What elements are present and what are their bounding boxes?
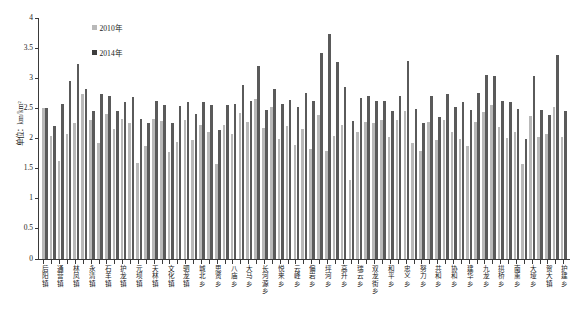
x-tick-cell — [205, 260, 213, 264]
y-tick-label: 2.5 — [24, 103, 33, 112]
x-label-cell — [64, 265, 72, 314]
x-tick-mark — [421, 260, 422, 264]
x-tick-cell — [505, 260, 513, 264]
x-label-cell — [142, 265, 150, 314]
x-tick-mark — [358, 260, 359, 264]
x-label-cell: 双龙街乡 — [371, 265, 379, 314]
x-label-cell: 南薰乡 — [513, 265, 521, 314]
bar-2014 — [85, 89, 88, 260]
x-label-cell — [95, 265, 103, 314]
x-tick-mark — [390, 260, 391, 264]
bar-group — [300, 18, 308, 259]
x-tick-mark — [327, 260, 328, 264]
bar-2014 — [383, 101, 386, 259]
bar-2014 — [336, 62, 339, 259]
x-tick-cell — [520, 260, 528, 264]
bar-group — [324, 18, 332, 259]
x-tick-cell — [72, 260, 80, 264]
x-tick-mark — [429, 260, 430, 264]
bar-2014 — [163, 105, 166, 259]
bar-group — [379, 18, 387, 259]
x-tick-mark — [83, 260, 84, 264]
bar-2014 — [344, 87, 347, 259]
x-tick-cell — [442, 260, 450, 264]
y-tick-label: 0.5 — [24, 223, 33, 232]
x-tick-mark — [122, 260, 123, 264]
bar-2014 — [226, 105, 229, 259]
x-tick-cell — [331, 260, 339, 264]
bar-2014 — [517, 109, 520, 259]
y-tick-label: 4 — [29, 13, 33, 22]
x-tick-mark — [240, 260, 241, 264]
bar-group — [418, 18, 426, 259]
x-label-cell: 八庙乡 — [229, 265, 237, 314]
x-tick-mark — [295, 260, 296, 264]
x-tick-cell — [213, 260, 221, 264]
x-tick-mark — [138, 260, 139, 264]
x-axis-label: 通营镇 — [56, 265, 63, 287]
x-tick-cell — [300, 260, 308, 264]
x-axis-label: 贺大镇 — [544, 265, 551, 287]
x-tick-mark — [91, 260, 92, 264]
x-label-cell: 和平乡 — [387, 265, 395, 314]
x-tick-mark — [563, 260, 564, 264]
x-tick-mark — [406, 260, 407, 264]
bar-2014 — [210, 105, 213, 259]
x-label-cell: 大马乡 — [245, 265, 253, 314]
x-tick-cell — [292, 260, 300, 264]
x-label-cell: 悦来乡 — [276, 265, 284, 314]
x-label-cell: 协和乡 — [450, 265, 458, 314]
x-tick-cell — [174, 260, 182, 264]
bar-group — [308, 18, 316, 259]
x-label-cell: 永清镇 — [87, 265, 95, 314]
x-label-cell: 元坝镇 — [135, 265, 143, 314]
x-label-cell — [127, 265, 135, 314]
bar-group — [473, 18, 481, 259]
x-tick-cell — [473, 260, 481, 264]
x-axis-label: 八庙乡 — [229, 265, 236, 287]
x-tick-mark — [343, 260, 344, 264]
bar-2014 — [45, 108, 48, 259]
bar-2014 — [320, 53, 323, 259]
bar-group — [237, 18, 245, 259]
x-tick-cell — [410, 260, 418, 264]
legend-label-2010: 2010年 — [100, 22, 123, 33]
bar-2014 — [391, 111, 394, 259]
bar-2014 — [92, 111, 95, 259]
bar-2014 — [352, 121, 355, 259]
x-label-cell: 坪河乡 — [324, 265, 332, 314]
x-label-cell — [316, 265, 324, 314]
x-tick-cell — [103, 260, 111, 264]
x-tick-mark — [67, 260, 68, 264]
x-axis-ticks — [38, 260, 570, 264]
y-tick-label: 3 — [29, 73, 33, 82]
bar-group — [206, 18, 214, 259]
x-tick-cell — [268, 260, 276, 264]
x-tick-cell — [111, 260, 119, 264]
x-label-cell — [300, 265, 308, 314]
bar-2014 — [124, 102, 127, 259]
x-label-cell: 城北乡 — [198, 265, 206, 314]
x-tick-mark — [453, 260, 454, 264]
x-tick-mark — [437, 260, 438, 264]
x-axis-label: 偏岩乡 — [308, 265, 315, 287]
x-tick-cell — [355, 260, 363, 264]
x-tick-cell — [284, 260, 292, 264]
bar-2014 — [140, 119, 143, 259]
bar-2014 — [108, 96, 111, 259]
x-tick-cell — [528, 260, 536, 264]
x-tick-cell — [544, 260, 552, 264]
x-axis-label: 双龙街乡 — [371, 265, 378, 294]
bar-group — [135, 18, 143, 259]
x-tick-cell — [418, 260, 426, 264]
bar-2014 — [367, 96, 370, 259]
bar-group — [49, 18, 57, 259]
legend-swatch-icon-2010 — [92, 25, 97, 30]
bar-2014 — [399, 96, 402, 259]
bar-group — [442, 18, 450, 259]
x-tick-cell — [465, 260, 473, 264]
x-tick-cell — [379, 260, 387, 264]
x-label-cell: 建华乡 — [465, 265, 473, 314]
bar-2014 — [250, 101, 253, 259]
x-axis-label: 瑞云乡 — [355, 265, 362, 287]
